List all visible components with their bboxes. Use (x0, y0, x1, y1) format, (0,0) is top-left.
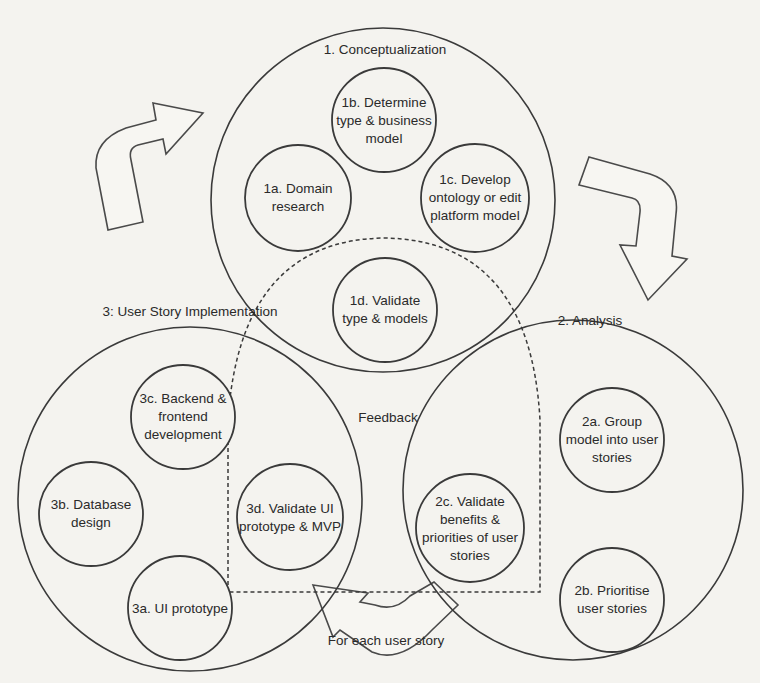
svg-text:type & models: type & models (342, 311, 428, 326)
svg-text:design: design (71, 515, 111, 530)
arrow-phase3-to-phase1 (96, 103, 203, 230)
svg-text:type & business: type & business (336, 113, 432, 128)
step-3b-circle (39, 462, 143, 566)
svg-text:1c. Develop: 1c. Develop (439, 172, 510, 187)
loop-label: For each user story (328, 633, 445, 648)
svg-text:3c. Backend &: 3c. Backend & (139, 391, 226, 406)
step-2c-circle (416, 474, 524, 582)
step-3d-circle (237, 464, 343, 570)
svg-text:3b. Database: 3b. Database (51, 497, 131, 512)
svg-text:1b. Determine: 1b. Determine (342, 95, 427, 110)
svg-text:2b. Prioritise: 2b. Prioritise (574, 583, 649, 598)
feedback-label: Feedback (358, 410, 418, 425)
svg-text:stories: stories (592, 450, 632, 465)
svg-text:frontend: frontend (158, 409, 208, 424)
svg-text:ontology or edit: ontology or edit (429, 190, 522, 205)
step-3a-label: 3a. UI prototype (132, 601, 228, 616)
svg-text:1a. Domain: 1a. Domain (263, 181, 332, 196)
svg-text:priorities of user: priorities of user (422, 530, 519, 545)
step-2b-circle (560, 548, 664, 652)
phase-1-title: 1. Conceptualization (324, 42, 446, 57)
step-1c-label: 1c. Develop ontology or edit platform mo… (429, 172, 522, 223)
svg-text:development: development (144, 427, 222, 442)
svg-text:2a. Group: 2a. Group (582, 414, 642, 429)
svg-text:prototype & MVP: prototype & MVP (239, 519, 341, 534)
svg-text:model: model (366, 131, 403, 146)
process-diagram: 1. Conceptualization 2. Analysis 3: User… (0, 0, 760, 683)
svg-text:2c. Validate: 2c. Validate (435, 494, 505, 509)
svg-text:3d. Validate UI: 3d. Validate UI (246, 501, 334, 516)
phase-2-title: 2. Analysis (558, 313, 623, 328)
svg-text:user stories: user stories (577, 601, 647, 616)
svg-text:platform model: platform model (430, 208, 519, 223)
phase-3-title: 3: User Story Implementation (103, 304, 278, 319)
svg-text:model into user: model into user (566, 432, 659, 447)
svg-text:research: research (272, 199, 325, 214)
svg-text:1d. Validate: 1d. Validate (350, 293, 420, 308)
svg-text:stories: stories (450, 548, 490, 563)
step-1a-circle (245, 145, 351, 251)
svg-text:benefits &: benefits & (440, 512, 500, 527)
step-1d-circle (333, 258, 437, 362)
arrow-phase1-to-phase2 (579, 157, 687, 300)
svg-text:3a. UI prototype: 3a. UI prototype (132, 601, 228, 616)
